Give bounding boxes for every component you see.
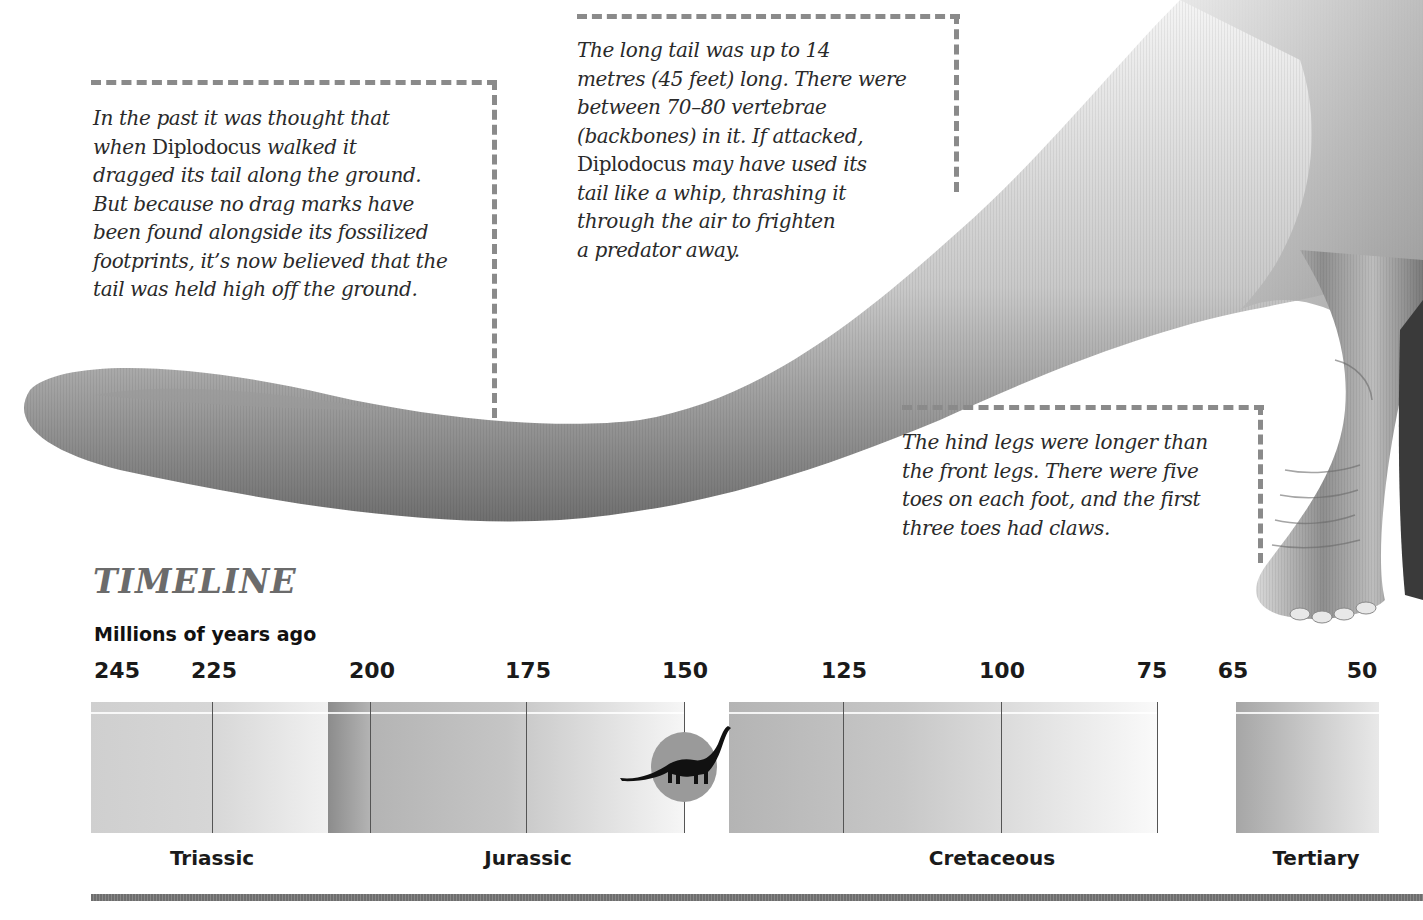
callout-line: The hind legs were longer than [902, 428, 1208, 457]
callout-long-tail-top-border [577, 14, 960, 19]
callout-line: toes on each foot, and the first [902, 485, 1208, 514]
band-cretaceous [729, 702, 1158, 833]
species-name: Diplodocus [152, 135, 261, 159]
band-tertiary [1236, 702, 1379, 833]
tick-label-175: 175 [505, 658, 551, 683]
callout-tail-posture-top-border [91, 80, 497, 85]
tick-label-200: 200 [349, 658, 395, 683]
gridline-225 [212, 702, 213, 833]
gridline-125 [843, 702, 844, 833]
period-label-cretaceous: Cretaceous [929, 846, 1055, 870]
gridline-75 [1157, 702, 1158, 833]
callout-line: (backbones) in it. If attacked, [577, 122, 907, 151]
callout-line: In the past it was thought that [93, 104, 447, 133]
gridline-175 [526, 702, 527, 833]
callout-line: Diplodocus may have used its [577, 150, 907, 179]
gridline-200 [370, 702, 371, 833]
callout-line: between 70–80 vertebrae [577, 93, 907, 122]
callout-tail-posture: In the past it was thought thatwhen Dipl… [93, 104, 447, 304]
tick-label-100: 100 [979, 658, 1025, 683]
callout-line: been found alongside its fossilized [93, 218, 447, 247]
tick-label-150: 150 [662, 658, 708, 683]
gridline-100 [1001, 702, 1002, 833]
callout-tail-posture-leader-line [492, 80, 497, 418]
timeline-title: TIMELINE [93, 562, 297, 601]
callout-line: The long tail was up to 14 [577, 36, 907, 65]
tick-label-65: 65 [1218, 658, 1249, 683]
tick-label-50: 50 [1347, 658, 1378, 683]
callout-line: dragged its tail along the ground. [93, 161, 447, 190]
callout-line: tail like a whip, thrashing it [577, 179, 907, 208]
band-triassic [91, 702, 328, 833]
callout-hind-legs-top-border [902, 405, 1264, 410]
callout-hind-legs: The hind legs were longer thanthe front … [902, 428, 1208, 542]
callout-long-tail: The long tail was up to 14metres (45 fee… [577, 36, 907, 264]
period-label-triassic: Triassic [170, 846, 254, 870]
callout-line: But because no drag marks have [93, 190, 447, 219]
tick-label-75: 75 [1137, 658, 1168, 683]
diplodocus-silhouette-icon [618, 722, 734, 804]
species-name: Diplodocus [577, 152, 686, 176]
tick-label-245: 245 [94, 658, 140, 683]
callout-line: the front legs. There were five [902, 457, 1208, 486]
callout-line: three toes had claws. [902, 514, 1208, 543]
callout-line: through the air to frighten [577, 207, 907, 236]
callout-line: metres (45 feet) long. There were [577, 65, 907, 94]
callout-line: a predator away. [577, 236, 907, 265]
tick-label-125: 125 [821, 658, 867, 683]
bottom-rule [91, 894, 1423, 901]
callout-long-tail-leader-line [954, 14, 959, 192]
axis-caption: Millions of years ago [94, 623, 316, 645]
callout-line: tail was held high off the ground. [93, 275, 447, 304]
tick-label-225: 225 [191, 658, 237, 683]
callout-line: when Diplodocus walked it [93, 133, 447, 162]
period-label-jurassic: Jurassic [484, 846, 572, 870]
period-label-tertiary: Tertiary [1272, 846, 1359, 870]
callout-line: footprints, it’s now believed that the [93, 247, 447, 276]
callout-hind-legs-leader-line [1258, 405, 1263, 563]
